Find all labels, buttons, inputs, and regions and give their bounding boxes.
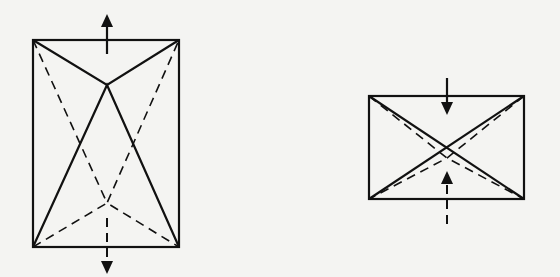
right-up-arrow-icon	[441, 171, 453, 224]
left-up-arrow-icon	[101, 14, 113, 54]
right-figure	[369, 78, 524, 224]
left-rectangle	[33, 40, 179, 247]
diagram-canvas	[0, 0, 560, 277]
diagram-svg	[0, 0, 560, 277]
left-figure	[33, 14, 179, 274]
left-dashed-x-lines	[33, 40, 179, 203]
